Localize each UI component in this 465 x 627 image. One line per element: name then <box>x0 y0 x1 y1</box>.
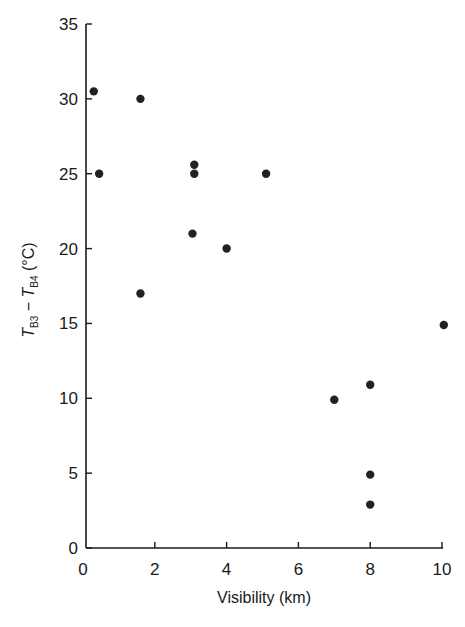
data-point <box>190 170 198 178</box>
x-axis-title: Visibility (km) <box>217 589 311 606</box>
x-tick-label: 2 <box>150 560 159 579</box>
y-ticks: 05101520253035 <box>59 15 92 558</box>
y-tick-label: 30 <box>59 90 78 109</box>
y-tick-label: 0 <box>69 539 78 558</box>
y-title-unit: (°C) <box>20 242 37 275</box>
data-point <box>136 95 144 103</box>
data-point <box>190 161 198 169</box>
data-point <box>366 470 374 478</box>
scatter-chart: 05101520253035 0246810 Visibility (km) T… <box>0 0 465 627</box>
x-tick-label: 6 <box>294 560 303 579</box>
y-tick-label: 25 <box>59 165 78 184</box>
data-point <box>366 500 374 508</box>
x-tick-label: 8 <box>365 560 374 579</box>
y-axis-title: TB3 − TB4 (°C) <box>20 242 40 337</box>
x-tick-label: 4 <box>222 560 231 579</box>
data-point <box>366 381 374 389</box>
x-tick-label: 0 <box>78 560 87 579</box>
y-title-dash: − <box>20 297 37 315</box>
y-tick-label: 10 <box>59 389 78 408</box>
data-point <box>95 170 103 178</box>
data-points <box>90 87 448 509</box>
data-point <box>440 321 448 329</box>
y-tick-label: 5 <box>69 464 78 483</box>
y-tick-label: 15 <box>59 314 78 333</box>
data-point <box>262 170 270 178</box>
data-point <box>330 396 338 404</box>
data-point <box>222 244 230 252</box>
x-tick-label: 10 <box>433 560 452 579</box>
data-point <box>188 229 196 237</box>
data-point <box>90 87 98 95</box>
y-tick-label: 35 <box>59 15 78 34</box>
y-title-sub2: B4 <box>29 275 40 288</box>
y-tick-label: 20 <box>59 240 78 259</box>
data-point <box>136 289 144 297</box>
y-title-sub1: B3 <box>29 315 40 328</box>
